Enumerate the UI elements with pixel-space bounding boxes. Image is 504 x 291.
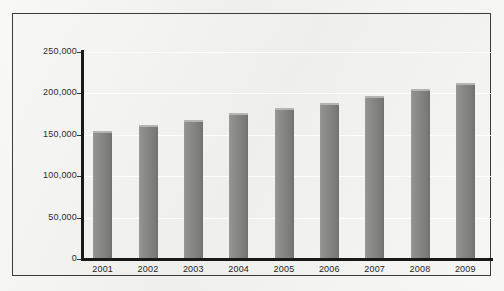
x-axis-tick-label: 2006 [309, 264, 349, 274]
x-axis-tick-label: 2007 [355, 264, 395, 274]
y-axis-labels: 050,000100,000150,000200,000250,000 [13, 14, 77, 277]
y-axis-tick [77, 93, 81, 94]
x-axis-tick-label: 2003 [173, 264, 213, 274]
y-axis-tick [77, 135, 81, 136]
x-axis-tick-label: 2004 [219, 264, 259, 274]
x-axis-tick-label: 2008 [400, 264, 440, 274]
y-axis-tick [77, 218, 81, 219]
y-axis-tick-label: 0 [72, 253, 77, 263]
y-axis-tick [77, 52, 81, 53]
x-axis-tick-label: 2009 [445, 264, 485, 274]
x-axis-tick-label: 2005 [264, 264, 304, 274]
y-axis-tick-label: 100,000 [43, 170, 77, 180]
y-axis-tick-label: 150,000 [43, 129, 77, 139]
bar-chart-screenshot: 050,000100,000150,000200,000250,000 2001… [0, 0, 504, 291]
x-axis-tick-label: 2001 [83, 264, 123, 274]
x-axis-labels: 200120022003200420052006200720082009 [83, 14, 493, 277]
y-axis-tick [77, 259, 81, 260]
y-axis-tick-label: 200,000 [43, 87, 77, 97]
chart-frame: 050,000100,000150,000200,000250,000 2001… [12, 13, 491, 276]
x-axis-tick-label: 2002 [128, 264, 168, 274]
y-axis-tick-label: 250,000 [43, 46, 77, 56]
y-axis-tick-label: 50,000 [48, 212, 77, 222]
y-axis-tick [77, 176, 81, 177]
